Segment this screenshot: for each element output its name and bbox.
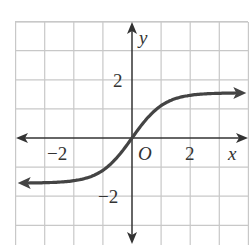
y-tick-neg2: −2 <box>98 186 118 207</box>
y-axis-label: y <box>137 27 148 48</box>
x-tick-2: 2 <box>185 143 195 164</box>
x-tick-neg2: −2 <box>47 143 67 164</box>
x-axis-label: x <box>227 143 237 164</box>
y-tick-2: 2 <box>113 70 123 91</box>
graph: y x O −2 2 2 −2 <box>0 0 251 245</box>
origin-label: O <box>138 143 152 164</box>
